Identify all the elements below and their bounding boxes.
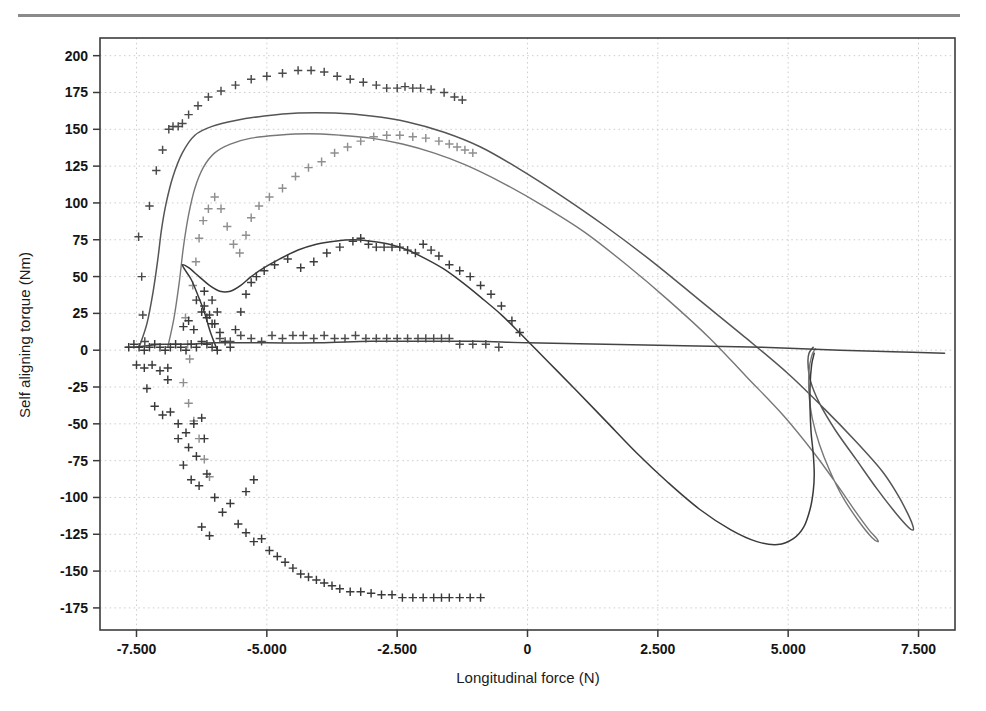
data-marker xyxy=(320,68,328,76)
data-marker xyxy=(145,202,153,210)
data-marker xyxy=(179,461,187,469)
data-marker xyxy=(349,237,357,245)
data-marker xyxy=(427,246,435,254)
data-marker xyxy=(158,411,166,419)
data-marker xyxy=(182,429,190,437)
data-marker xyxy=(403,246,411,254)
data-marker xyxy=(409,84,417,92)
data-marker xyxy=(450,93,458,101)
data-marker xyxy=(152,166,160,174)
data-marker xyxy=(211,193,219,201)
series-slip-angle-set-2-model xyxy=(168,134,879,542)
y-tick-label: -125 xyxy=(60,526,88,542)
data-marker xyxy=(297,264,305,272)
data-marker xyxy=(346,75,354,83)
y-tick-label: -175 xyxy=(60,600,88,616)
data-marker xyxy=(200,287,208,295)
data-marker xyxy=(187,476,195,484)
data-marker xyxy=(257,337,265,345)
y-tick-label: -75 xyxy=(68,453,88,469)
data-marker xyxy=(330,149,338,157)
data-marker xyxy=(330,334,338,342)
data-marker xyxy=(458,96,466,104)
data-marker xyxy=(247,75,255,83)
data-marker xyxy=(156,367,164,375)
data-marker xyxy=(237,308,245,316)
chart-canvas: -7.500-5.000-2.50002.5005.0007.500 20017… xyxy=(0,0,986,711)
data-marker xyxy=(476,593,484,601)
data-marker xyxy=(307,66,315,74)
data-marker xyxy=(134,233,142,241)
data-marker xyxy=(192,258,200,266)
data-marker xyxy=(328,582,336,590)
data-marker xyxy=(291,172,299,180)
data-marker xyxy=(411,249,419,257)
y-tick-label: 150 xyxy=(65,121,89,137)
data-marker xyxy=(383,84,391,92)
data-marker xyxy=(453,143,461,151)
data-marker xyxy=(186,355,194,363)
y-axis-title: Self aligning torque (Nm) xyxy=(16,252,33,418)
data-marker xyxy=(208,296,216,304)
data-marker xyxy=(367,589,375,597)
data-marker xyxy=(231,81,239,89)
data-marker xyxy=(469,149,477,157)
data-marker xyxy=(476,281,484,289)
data-marker xyxy=(310,334,318,342)
data-marker xyxy=(195,234,203,242)
y-tick-label: 0 xyxy=(80,342,88,358)
data-marker xyxy=(174,420,182,428)
data-marker xyxy=(179,378,187,386)
grid-layer xyxy=(100,38,955,630)
data-marker xyxy=(200,455,208,463)
data-marker xyxy=(236,249,244,257)
data-marker xyxy=(179,322,187,330)
data-marker xyxy=(140,364,148,372)
data-marker xyxy=(204,93,212,101)
y-tick-label: 75 xyxy=(72,232,88,248)
data-marker xyxy=(435,137,443,145)
data-marker xyxy=(396,131,404,139)
data-marker xyxy=(312,576,320,584)
data-marker xyxy=(336,243,344,251)
data-marker xyxy=(445,593,453,601)
data-marker xyxy=(139,311,147,319)
data-marker xyxy=(430,593,438,601)
data-marker xyxy=(357,137,365,145)
series-slip-angle-set-3-model xyxy=(182,240,814,545)
series-slip-angle-set-1-model xyxy=(139,113,913,530)
data-marker xyxy=(310,258,318,266)
data-marker xyxy=(409,133,417,141)
data-marker xyxy=(132,361,140,369)
data-marker xyxy=(226,499,234,507)
y-tick-label: 125 xyxy=(65,158,89,174)
data-marker xyxy=(495,343,503,351)
x-tick-label: -7.500 xyxy=(117,641,157,657)
data-marker xyxy=(445,261,453,269)
data-marker xyxy=(184,443,192,451)
data-marker xyxy=(198,414,206,422)
data-marker xyxy=(398,593,406,601)
data-marker xyxy=(333,72,341,80)
data-marker xyxy=(192,452,200,460)
data-marker xyxy=(223,222,231,230)
data-marker xyxy=(211,493,219,501)
data-marker xyxy=(190,325,198,333)
data-marker xyxy=(299,331,307,339)
data-marker xyxy=(204,205,212,213)
data-marker xyxy=(229,240,237,248)
data-marker xyxy=(466,593,474,601)
data-marker xyxy=(419,593,427,601)
y-tick-label: -100 xyxy=(60,489,88,505)
data-marker xyxy=(247,214,255,222)
data-marker xyxy=(263,72,271,80)
data-marker xyxy=(242,290,250,298)
data-marker xyxy=(323,249,331,257)
data-marker xyxy=(278,334,286,342)
data-marker xyxy=(508,317,516,325)
data-marker xyxy=(437,593,445,601)
data-marker xyxy=(278,184,286,192)
data-marker xyxy=(231,325,239,333)
header-rule xyxy=(18,14,960,17)
series-lower-lobe-measured xyxy=(143,376,485,602)
